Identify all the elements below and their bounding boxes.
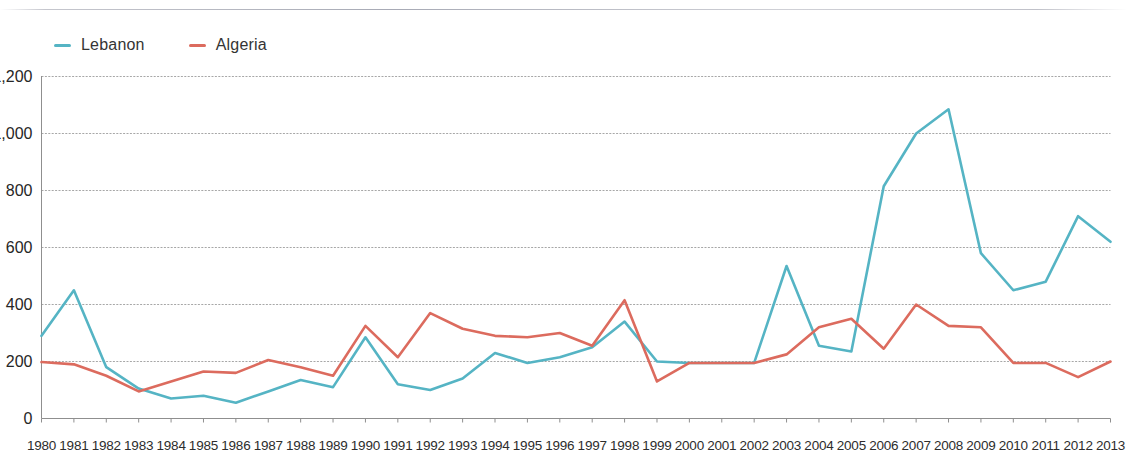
y-axis-tick-label: 0 — [24, 410, 33, 427]
x-axis-tick-label: 2006 — [869, 438, 898, 453]
x-axis-tick-label: 2000 — [675, 438, 704, 453]
x-axis-tick-label: 1980 — [27, 438, 56, 453]
y-axis-tick-label: 200 — [6, 353, 33, 370]
x-axis-tick-label: 1987 — [254, 438, 283, 453]
x-axis-tick-label: 1994 — [480, 438, 510, 453]
x-axis-tick-label: 1997 — [578, 438, 607, 453]
x-axis-tick-label: 1995 — [513, 438, 542, 453]
plot-area: 02004006008001,0001,20019801981198219831… — [0, 0, 1127, 464]
series-line-lebanon[interactable] — [42, 109, 1111, 403]
x-axis-tick-label: 2005 — [837, 438, 866, 453]
x-axis-tick-label: 1999 — [642, 438, 671, 453]
x-axis-tick-label: 1992 — [416, 438, 445, 453]
series-line-algeria[interactable] — [42, 300, 1111, 391]
x-axis-tick-label: 1989 — [318, 438, 347, 453]
x-axis-tick-label: 1985 — [189, 438, 218, 453]
line-chart-figure: LebanonAlgeria 02004006008001,0001,20019… — [0, 0, 1127, 464]
chart-svg: 02004006008001,0001,20019801981198219831… — [0, 0, 1127, 464]
x-axis-tick-label: 2008 — [934, 438, 963, 453]
x-axis-tick-label: 2011 — [1032, 438, 1060, 453]
x-axis-tick-label: 2001 — [707, 438, 736, 453]
x-axis-tick-label: 1991 — [383, 438, 412, 453]
x-axis-tick-label: 2013 — [1096, 438, 1125, 453]
x-axis-tick-label: 2007 — [902, 438, 931, 453]
y-axis-tick-label: 400 — [6, 296, 33, 313]
y-axis-tick-label: 600 — [6, 239, 33, 256]
x-axis-tick-label: 1984 — [156, 438, 186, 453]
x-axis-tick-label: 1986 — [221, 438, 250, 453]
x-axis-tick-label: 1982 — [92, 438, 121, 453]
x-axis-tick-label: 2002 — [740, 438, 769, 453]
x-axis-tick-label: 1983 — [124, 438, 153, 453]
y-axis-tick-label: 1,200 — [0, 68, 33, 85]
x-axis-tick-label: 2009 — [966, 438, 995, 453]
y-axis-tick-label: 1,000 — [0, 125, 33, 142]
x-axis-tick-label: 1988 — [286, 438, 315, 453]
x-axis-tick-label: 2004 — [804, 438, 834, 453]
x-axis-tick-label: 1981 — [59, 438, 88, 453]
x-axis-tick-label: 1993 — [448, 438, 477, 453]
x-axis-tick-label: 1996 — [545, 438, 574, 453]
x-axis-tick-label: 1998 — [610, 438, 639, 453]
y-axis-tick-label: 800 — [6, 182, 33, 199]
x-axis-tick-label: 2003 — [772, 438, 801, 453]
x-axis-tick-label: 2010 — [999, 438, 1028, 453]
x-axis-tick-label: 1990 — [351, 438, 380, 453]
x-axis-tick-label: 2012 — [1063, 438, 1092, 453]
